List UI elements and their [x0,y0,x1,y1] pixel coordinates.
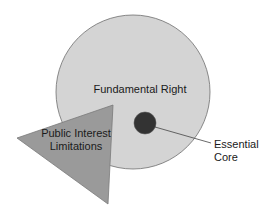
diagram-canvas [0,0,275,222]
public-interest-label-line2: Limitations [36,140,116,152]
fundamental-right-label: Fundamental Right [85,83,195,95]
essential-core-label-line2: Core [214,151,238,163]
essential-core-circle [134,112,156,134]
public-interest-label-line1: Public Interest [36,127,116,139]
essential-core-label-line1: Essential [214,138,259,150]
